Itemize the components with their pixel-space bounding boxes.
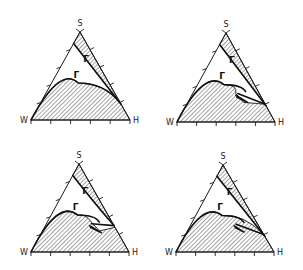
phase-label-gamma-upper: Γ	[227, 187, 233, 197]
tick-mark-right	[120, 100, 124, 102]
vertex-label-h: H	[133, 116, 139, 125]
tick-mark-right	[243, 198, 247, 200]
vertex-label-w: W	[20, 116, 28, 125]
vertex-label-h: H	[277, 248, 283, 257]
ternary-diagram-top-left: SWHΓΓ	[20, 19, 139, 125]
tick-mark-apex	[75, 161, 83, 164]
tick-mark-right	[264, 233, 268, 235]
tick-mark-right	[89, 180, 93, 182]
tick-mark-right	[265, 102, 269, 104]
tick-mark-apex	[219, 162, 227, 165]
tick-mark-right	[99, 197, 103, 199]
two-phase-region-lower	[31, 79, 130, 120]
two-phase-region-lower	[31, 211, 129, 252]
vertex-label-s: S	[223, 20, 228, 29]
vertex-label-w: W	[20, 248, 28, 257]
tick-mark-right	[255, 84, 259, 86]
tick-mark-right	[233, 180, 237, 182]
phase-label-gamma-upper: Γ	[82, 186, 88, 196]
vertex-label-s: S	[77, 19, 82, 28]
ternary-diagram-bottom-left: SWHΓΓ	[20, 151, 138, 257]
vertex-label-w: W	[166, 118, 174, 127]
tick-mark-right	[254, 215, 258, 217]
vertex-label-s: S	[220, 152, 225, 161]
phase-label-gamma-upper: Γ	[229, 55, 235, 65]
tick-mark-apex	[76, 29, 84, 32]
tick-mark-right	[100, 65, 104, 67]
phase-label-gamma-lower: Γ	[217, 202, 223, 212]
two-phase-region-lower	[176, 212, 274, 252]
phase-label-gamma-upper: Γ	[83, 54, 89, 64]
vertex-label-s: S	[76, 151, 81, 160]
tick-mark-right	[110, 83, 114, 85]
ternary-diagram-top-right: SWHΓΓ	[166, 20, 284, 127]
tick-mark-right	[109, 215, 113, 217]
vertex-label-h: H	[278, 118, 284, 127]
tick-mark-right	[90, 48, 94, 50]
phase-label-gamma-lower: Γ	[73, 202, 79, 212]
tick-mark-right	[119, 232, 123, 234]
phase-diagram-figure: SWHΓΓSWHΓΓSWHΓΓSWHΓΓ	[0, 0, 303, 270]
tick-mark-right	[236, 49, 240, 51]
phase-label-gamma-lower: Γ	[73, 70, 79, 80]
vertex-label-h: H	[132, 248, 138, 257]
tick-mark-apex	[222, 30, 230, 33]
tick-mark-right	[246, 67, 250, 69]
vertex-label-w: W	[165, 248, 173, 257]
phase-label-gamma-lower: Γ	[219, 71, 225, 81]
ternary-diagram-bottom-right: SWHΓΓ	[165, 152, 283, 257]
